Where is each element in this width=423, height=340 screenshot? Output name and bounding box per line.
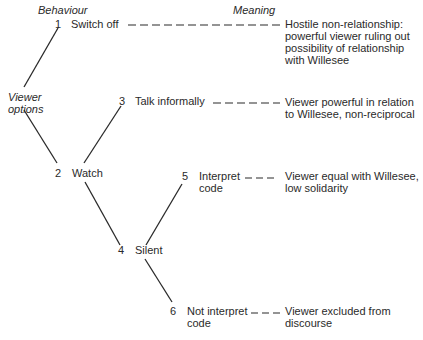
node-4-number: 4 bbox=[118, 244, 124, 256]
node-2-number: 2 bbox=[55, 167, 61, 179]
node-6-number: 6 bbox=[170, 305, 176, 317]
meaning-header: Meaning bbox=[233, 4, 275, 16]
meaning-3-line-2: to Willesee, non-reciprocal bbox=[285, 108, 415, 120]
meaning-1-line-3: possibility of relationship bbox=[285, 42, 404, 54]
node-3-label: Talk informally bbox=[135, 95, 205, 107]
meaning-1-line-2: powerful viewer ruling out bbox=[285, 30, 410, 42]
node-6-label-1: Not interpret bbox=[187, 305, 248, 317]
node-1-number: 1 bbox=[55, 18, 61, 30]
meaning-6-line-1: Viewer excluded from bbox=[285, 305, 391, 317]
viewer-options-label-2: options bbox=[8, 103, 43, 115]
meaning-5-line-1: Viewer equal with Willesee, bbox=[285, 170, 419, 182]
node-4-label: Silent bbox=[135, 244, 163, 256]
meaning-6-line-2: discourse bbox=[285, 317, 332, 329]
edge-4-to-5 bbox=[146, 184, 182, 245]
viewer-options-label-1: Viewer bbox=[8, 91, 41, 103]
meaning-1-line-4: with Willesee bbox=[285, 54, 349, 66]
edge-options-to-1 bbox=[24, 28, 58, 87]
node-5-number: 5 bbox=[182, 170, 188, 182]
meaning-3-line-1: Viewer powerful in relation bbox=[285, 96, 414, 108]
edge-2-to-3 bbox=[84, 106, 121, 163]
meaning-1-line-1: Hostile non-relationship: bbox=[285, 18, 403, 30]
node-5-label-1: Interpret bbox=[199, 170, 240, 182]
node-1-label: Switch off bbox=[71, 18, 119, 30]
meaning-5-line-2: low solidarity bbox=[285, 182, 348, 194]
edge-2-to-4 bbox=[85, 182, 120, 245]
node-2-label: Watch bbox=[72, 167, 103, 179]
edge-4-to-6 bbox=[145, 259, 172, 302]
node-3-number: 3 bbox=[119, 95, 125, 107]
node-6-label-2: code bbox=[187, 317, 211, 329]
edge-options-to-2 bbox=[24, 110, 57, 163]
node-5-label-2: code bbox=[199, 182, 223, 194]
behaviour-header: Behaviour bbox=[38, 4, 88, 16]
